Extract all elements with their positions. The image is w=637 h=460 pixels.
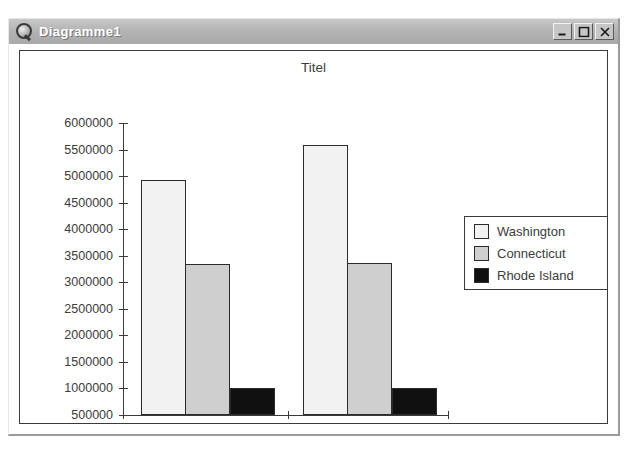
bar-washington-pop1997[interactable] — [303, 145, 348, 415]
y-tick-label: 1000000 — [25, 382, 113, 395]
bar-connecticut-pop1997[interactable] — [347, 263, 392, 415]
legend-swatch-washington — [474, 224, 489, 239]
y-tick-mark — [119, 362, 128, 363]
y-tick-label: 4000000 — [25, 223, 113, 236]
y-tick-mark — [119, 388, 128, 389]
y-tick-mark — [119, 256, 128, 257]
y-tick-label: 4500000 — [25, 197, 113, 210]
legend-swatch-rhode-island — [474, 268, 489, 283]
magnifier-icon — [15, 23, 32, 40]
y-tick-label: 2500000 — [25, 303, 113, 316]
bar-chart: Titel 6000000550000050000004500000400000… — [20, 51, 607, 423]
chart-legend: Washington Connecticut Rhode Island — [464, 216, 608, 290]
chart-title: Titel — [20, 60, 607, 75]
bar-washington-pop1990[interactable] — [141, 180, 186, 415]
close-icon — [598, 26, 611, 37]
minimize-button[interactable] — [553, 23, 572, 40]
y-tick-mark — [119, 123, 128, 124]
y-tick-label: 6000000 — [25, 117, 113, 130]
window-title: Diagramme1 — [39, 24, 121, 39]
y-tick-label: 5500000 — [25, 144, 113, 157]
y-tick-mark — [119, 229, 128, 230]
y-axis — [123, 123, 124, 416]
y-tick-label: 2000000 — [25, 329, 113, 342]
window-titlebar[interactable]: Diagramme1 — [9, 19, 618, 44]
y-tick-mark — [119, 335, 128, 336]
legend-item-connecticut[interactable]: Connecticut — [474, 246, 608, 261]
legend-item-rhode-island[interactable]: Rhode Island — [474, 268, 608, 283]
y-tick-mark — [119, 309, 128, 310]
legend-label-washington: Washington — [497, 224, 565, 239]
x-tick-mark — [123, 411, 124, 419]
y-tick-mark — [119, 150, 128, 151]
y-tick-label: 3500000 — [25, 250, 113, 263]
legend-item-washington[interactable]: Washington — [474, 224, 608, 239]
legend-swatch-connecticut — [474, 246, 489, 261]
bar-rhode-island-pop1990[interactable] — [230, 388, 275, 415]
x-tick-mark — [448, 411, 449, 419]
minimize-icon — [556, 26, 569, 37]
legend-label-rhode-island: Rhode Island — [497, 268, 574, 283]
y-tick-label: 5000000 — [25, 170, 113, 183]
y-tick-label: 1500000 — [25, 356, 113, 369]
chart-window[interactable]: Diagramme1 Titel 6000000550 — [8, 18, 620, 436]
maximize-icon — [577, 26, 590, 37]
y-tick-label: 500000 — [25, 409, 113, 422]
legend-label-connecticut: Connecticut — [497, 246, 566, 261]
close-button[interactable] — [595, 23, 614, 40]
y-tick-label: 3000000 — [25, 276, 113, 289]
y-tick-mark — [119, 176, 128, 177]
bar-connecticut-pop1990[interactable] — [185, 264, 230, 415]
y-tick-mark — [119, 203, 128, 204]
y-tick-mark — [119, 282, 128, 283]
bar-rhode-island-pop1997[interactable] — [392, 388, 437, 415]
chart-client-area: Titel 6000000550000050000004500000400000… — [19, 50, 608, 424]
x-axis — [123, 415, 448, 416]
window-controls — [553, 23, 614, 40]
maximize-button[interactable] — [574, 23, 593, 40]
x-tick-mark — [288, 411, 289, 419]
